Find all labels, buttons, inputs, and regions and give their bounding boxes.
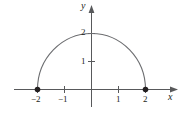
plot-canvas	[0, 0, 184, 117]
x-tick-label-1: 1	[116, 95, 121, 104]
y-axis-arrowhead	[89, 5, 95, 13]
x-tick-label-2: 2	[143, 95, 148, 104]
endpoint-dot-left	[35, 87, 41, 93]
endpoint-dot-right	[143, 87, 149, 93]
x-tick-label-minus-1: −1	[58, 95, 68, 104]
semicircle-graph-figure: −2 −1 1 2 1 2 x y	[0, 0, 184, 117]
y-tick-label-2: 2	[81, 28, 86, 37]
y-axis-label: y	[81, 1, 85, 11]
x-tick-label-minus-2: −2	[31, 95, 41, 104]
x-axis-label: x	[168, 92, 172, 102]
y-tick-label-1: 1	[81, 57, 86, 66]
